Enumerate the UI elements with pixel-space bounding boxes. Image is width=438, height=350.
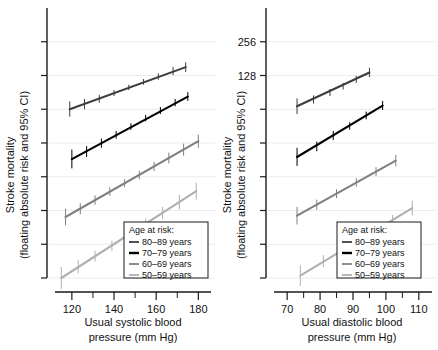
series-70–79-years bbox=[297, 101, 383, 166]
x-tick-label: 90 bbox=[347, 303, 359, 315]
y-tick-label: 128 bbox=[238, 70, 256, 82]
series-80–89-years bbox=[297, 68, 369, 114]
trend-line bbox=[297, 161, 396, 216]
panel-systolic: 120140160180 Stroke mortality (floating … bbox=[0, 0, 219, 350]
y-axis-ticks-left bbox=[41, 42, 47, 278]
x-tick-label: 180 bbox=[189, 303, 207, 315]
x-tick-label: 140 bbox=[105, 303, 123, 315]
legend-label: 60–69 years bbox=[142, 259, 192, 269]
x-tick-label: 110 bbox=[410, 303, 428, 315]
trend-line bbox=[297, 73, 369, 107]
legend-label: 50–59 years bbox=[355, 270, 405, 280]
x-axis-tick-labels-left: 120140160180 bbox=[63, 303, 208, 315]
x-axis-ticks-left bbox=[72, 292, 198, 300]
series-80–89-years bbox=[70, 62, 186, 116]
y-axis-ticks-right bbox=[260, 42, 266, 278]
legend-label: 80–89 years bbox=[142, 237, 192, 247]
x-tick-label: 160 bbox=[147, 303, 165, 315]
trend-line bbox=[70, 67, 186, 109]
y-axis-title-right-line2: (floating absolute risk and 95% CI) bbox=[235, 91, 247, 259]
series-60–69-years bbox=[66, 135, 199, 226]
legend-label: 60–69 years bbox=[355, 259, 405, 269]
y-axis-tick-labels-right: 128256 bbox=[238, 36, 256, 82]
y-axis-title-right-line1: Stroke mortality bbox=[221, 136, 233, 213]
y-axis-title-left-line2: (floating absolute risk and 95% CI) bbox=[18, 91, 30, 259]
x-axis-title-right-line1: Usual diastolic blood bbox=[302, 316, 403, 328]
y-axis-title-left-line1: Stroke mortality bbox=[4, 136, 16, 213]
x-tick-label: 80 bbox=[314, 303, 326, 315]
legend-right[interactable]: Age at risk: 80–89 years70–79 years60–69… bbox=[337, 222, 421, 280]
x-tick-label: 100 bbox=[377, 303, 395, 315]
x-tick-label: 120 bbox=[63, 303, 81, 315]
trend-line bbox=[297, 106, 383, 157]
x-axis-title-right-line2: pressure (mm Hg) bbox=[308, 331, 397, 343]
x-axis-ticks-right bbox=[287, 292, 419, 300]
y-tick-label: 256 bbox=[238, 36, 256, 48]
x-axis-title-left-line1: Usual systolic blood bbox=[84, 316, 181, 328]
legend-label: 50–59 years bbox=[142, 270, 192, 280]
legend-label: 70–79 years bbox=[142, 248, 192, 258]
panel-systolic-svg: 120140160180 Stroke mortality (floating … bbox=[0, 0, 219, 350]
x-tick-label: 70 bbox=[281, 303, 293, 315]
legend-left[interactable]: Age at risk: 80–89 years70–79 years60–69… bbox=[124, 222, 208, 280]
series-60–69-years bbox=[297, 155, 396, 225]
panel-diastolic-svg: 128256 708090100110 Stroke mortality (fl… bbox=[219, 0, 438, 350]
legend-label: 70–79 years bbox=[355, 248, 405, 258]
x-axis-tick-labels-right: 708090100110 bbox=[281, 303, 428, 315]
legend-title-left: Age at risk: bbox=[129, 225, 174, 235]
x-axis-title-left-line2: pressure (mm Hg) bbox=[89, 331, 178, 343]
legend-label: 80–89 years bbox=[355, 237, 405, 247]
legend-title-right: Age at risk: bbox=[342, 225, 387, 235]
figure-root: 120140160180 Stroke mortality (floating … bbox=[0, 0, 438, 350]
panel-diastolic: 128256 708090100110 Stroke mortality (fl… bbox=[219, 0, 438, 350]
trend-line bbox=[72, 97, 188, 159]
